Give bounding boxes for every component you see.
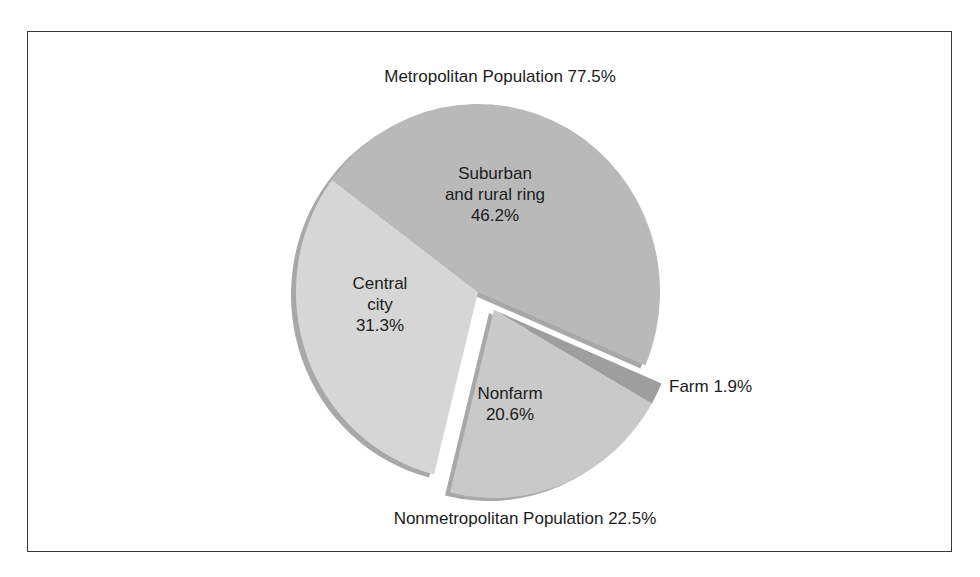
nonmetro-group-title: Nonmetropolitan Population 22.5% xyxy=(300,508,750,529)
slice-label-central-line3: 31.3% xyxy=(330,315,430,336)
slice-label-suburban-line3: 46.2% xyxy=(410,205,580,226)
slice-label-suburban-line1: Suburban xyxy=(410,163,580,184)
slice-label-suburban-line2: and rural ring xyxy=(410,184,580,205)
slice-label-nonfarm-line2: 20.6% xyxy=(455,404,565,425)
slice-label-central-line1: Central xyxy=(330,273,430,294)
slice-label-central-city: Central city 31.3% xyxy=(330,273,430,336)
slice-label-central-line2: city xyxy=(330,294,430,315)
slice-label-farm: Farm 1.9% xyxy=(669,376,752,397)
slice-label-nonfarm-line1: Nonfarm xyxy=(455,383,565,404)
slice-label-nonfarm: Nonfarm 20.6% xyxy=(455,383,565,425)
slice-label-suburban: Suburban and rural ring 46.2% xyxy=(410,163,580,226)
pie-chart xyxy=(0,0,980,577)
